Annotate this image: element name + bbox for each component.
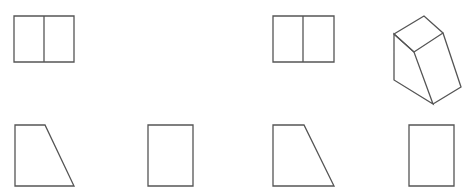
rectangle-outline — [409, 125, 454, 186]
view-bottom-4 — [409, 125, 454, 186]
solid-top-face — [394, 16, 443, 52]
view-bottom-3 — [273, 125, 334, 186]
solid-side-face — [433, 33, 461, 104]
solid-front-face — [394, 34, 433, 104]
view-top-middle — [273, 16, 334, 62]
diagram-canvas — [0, 0, 469, 194]
trapezoid-outline — [273, 125, 334, 186]
diagram-svg — [0, 0, 469, 194]
isometric-solid — [394, 16, 461, 104]
rectangle-outline — [148, 125, 193, 186]
view-top-left — [14, 16, 74, 62]
view-bottom-1 — [15, 125, 74, 186]
trapezoid-outline — [15, 125, 74, 186]
view-bottom-2 — [148, 125, 193, 186]
